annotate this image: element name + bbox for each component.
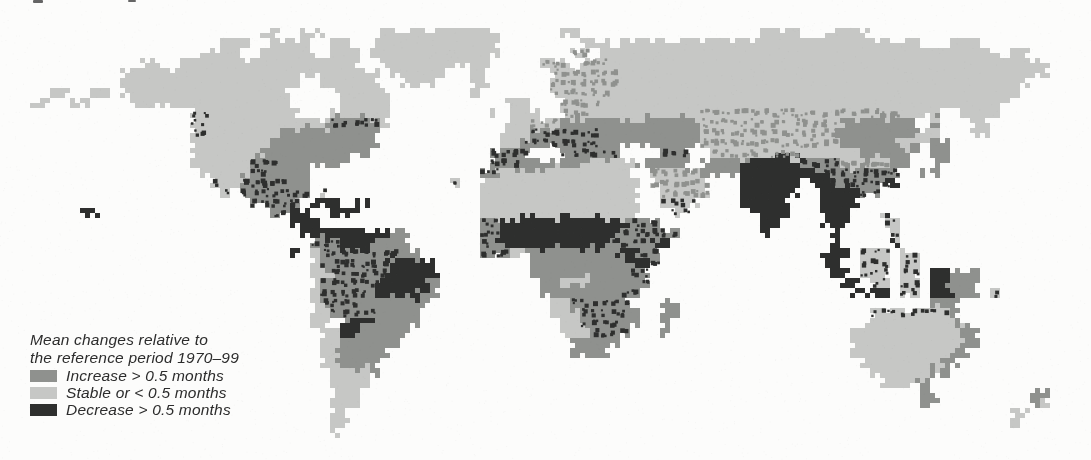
legend-item-increase: Increase > 0.5 months <box>30 367 239 384</box>
legend-label-stable: Stable or < 0.5 months <box>66 384 227 402</box>
legend-swatch-decrease <box>30 404 57 416</box>
figure-growing-season-map: Mean changes relative to the reference p… <box>0 0 1091 460</box>
cropped-text-remnant <box>128 0 136 2</box>
legend-caption-line-1: Mean changes relative to <box>30 331 239 349</box>
legend-swatch-increase <box>30 370 57 382</box>
legend-swatch-stable <box>30 387 57 399</box>
cropped-text-remnant <box>33 0 43 3</box>
legend-item-decrease: Decrease > 0.5 months <box>30 401 239 418</box>
legend-label-increase: Increase > 0.5 months <box>66 367 224 385</box>
legend-label-decrease: Decrease > 0.5 months <box>66 401 231 419</box>
legend-caption-line-2: the reference period 1970–99 <box>30 349 239 367</box>
legend-item-stable: Stable or < 0.5 months <box>30 384 239 401</box>
map-legend: Mean changes relative to the reference p… <box>30 331 239 418</box>
